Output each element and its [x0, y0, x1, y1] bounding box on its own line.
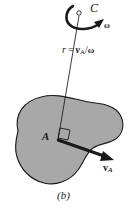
- label-velocity-vector-vA: vA: [103, 163, 113, 174]
- equation-denominator: ω: [88, 45, 95, 55]
- label-angular-velocity-omega: ω: [104, 22, 110, 30]
- diagram-canvas: [0, 0, 139, 211]
- velocity-vector-arrowhead-icon: [100, 151, 114, 161]
- velocity-subscript: A: [108, 166, 113, 174]
- equation-equals: =: [66, 44, 76, 55]
- label-center-C: C: [90, 2, 98, 14]
- instantaneous-center-C-icon: [77, 11, 81, 15]
- figure-caption: (b): [57, 190, 70, 201]
- label-point-A: A: [42, 131, 49, 142]
- label-radius-equation: r=vA/ω: [62, 45, 94, 56]
- figure-instant-center-diagram: C ω r=vA/ω A vA (b): [0, 0, 139, 211]
